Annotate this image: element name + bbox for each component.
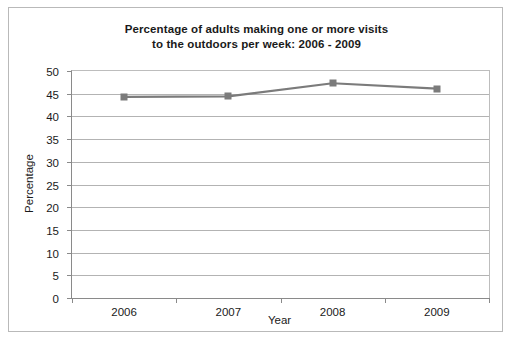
data-point-marker xyxy=(433,85,440,92)
y-axis-tick-label: 5 xyxy=(53,270,59,282)
y-axis-tick-label: 10 xyxy=(46,248,59,260)
x-axis-tick xyxy=(72,298,73,303)
plot-area: 50454035302520151050 2006200720082009 xyxy=(71,70,490,299)
y-axis-tick-label: 35 xyxy=(46,134,59,146)
x-axis-tick xyxy=(385,298,386,303)
x-axis-tick xyxy=(176,298,177,303)
y-axis-tick-label: 0 xyxy=(53,293,59,305)
y-axis-tick-label: 40 xyxy=(46,111,59,123)
data-point-marker xyxy=(121,93,128,100)
y-axis-tick-label: 20 xyxy=(46,202,59,214)
chart-title-line-2: to the outdoors per week: 2006 - 2009 xyxy=(9,37,504,52)
x-axis-tick xyxy=(489,298,490,303)
chart-figure: Percentage of adults making one or more … xyxy=(8,7,503,332)
y-axis-tick-label: 15 xyxy=(46,225,59,237)
y-axis-tick-label: 50 xyxy=(46,66,59,78)
data-point-marker xyxy=(225,93,232,100)
data-point-marker xyxy=(329,80,336,87)
chart-title: Percentage of adults making one or more … xyxy=(9,22,504,52)
y-axis-tick-label: 45 xyxy=(46,89,59,101)
y-axis-title: Percentage xyxy=(23,70,39,297)
x-axis-tick xyxy=(281,298,282,303)
y-axis-tick-label: 30 xyxy=(46,157,59,169)
chart-title-line-1: Percentage of adults making one or more … xyxy=(9,22,504,37)
y-axis-tick-label: 25 xyxy=(46,180,59,192)
x-axis-title: Year xyxy=(71,314,488,326)
series-line xyxy=(72,71,489,298)
